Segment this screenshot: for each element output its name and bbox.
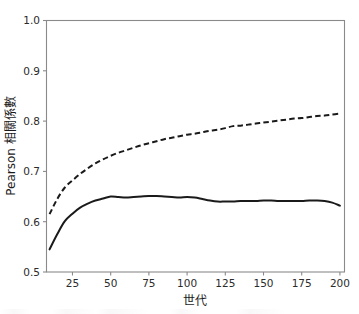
x-tick-label: 150 [253,277,273,289]
x-tick-label: 50 [104,277,117,289]
y-tick-label: 0.9 [23,65,40,77]
x-tick-label: 75 [142,277,155,289]
y-tick-label: 0.5 [23,266,40,278]
y-tick-label: 0.8 [23,115,40,127]
x-tick-label: 100 [177,277,197,289]
y-axis-title: Pearson 相關係數 [4,96,18,196]
x-axis-title: 世代 [183,294,207,308]
x-tick-label: 175 [292,277,312,289]
y-tick-label: 0.6 [23,216,40,228]
figure-background [0,0,359,314]
x-tick-label: 200 [330,277,350,289]
x-tick-label: 125 [215,277,235,289]
x-tick-label: 25 [66,277,79,289]
y-tick-label: 0.7 [23,165,40,177]
y-tick-label: 1.0 [23,14,40,26]
chart-figure: 0.50.60.70.80.91.0 255075100125150175200… [0,0,359,314]
chart-canvas: 0.50.60.70.80.91.0 255075100125150175200… [0,0,359,314]
